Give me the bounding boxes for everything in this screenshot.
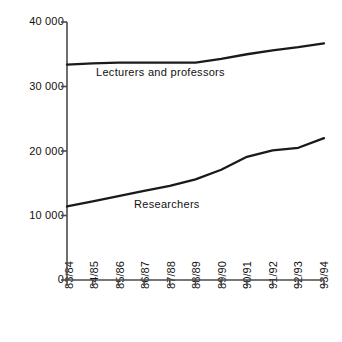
- series-line-lecturers-and-professors: [67, 43, 324, 64]
- chart-container: 40 000 30 000 20 000 10 000 0 83/84 84/8…: [0, 0, 342, 342]
- x-axis-ticks: [67, 280, 324, 286]
- series-line-researchers: [67, 138, 324, 206]
- y-axis-ticks: [61, 22, 67, 280]
- plot-area: [0, 0, 342, 342]
